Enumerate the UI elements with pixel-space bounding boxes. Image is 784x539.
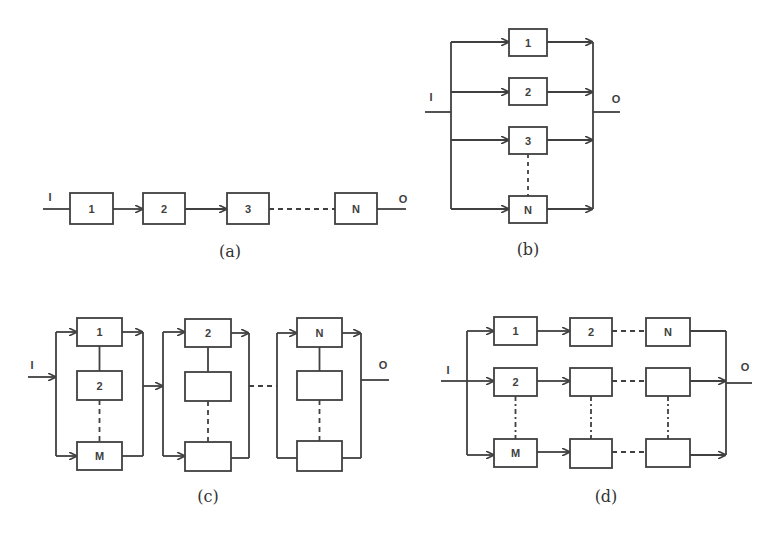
input-label: I: [48, 191, 51, 203]
series-row-1: 1 2 N: [467, 317, 726, 346]
input-label: I: [446, 364, 449, 376]
block-label: 1: [96, 326, 102, 338]
series-row-2: 2: [467, 368, 725, 396]
block-empty: [646, 439, 690, 467]
output-label: O: [612, 93, 621, 105]
block-label: 1: [88, 203, 94, 215]
panel-b-parallel: I O 1 2 3 N (b): [425, 29, 621, 259]
block-label: 2: [512, 376, 518, 388]
block-label: 1: [512, 325, 518, 337]
caption-b: (b): [517, 240, 540, 259]
output-label: O: [379, 359, 388, 371]
block-label: 2: [525, 86, 531, 98]
series-row-m: M: [467, 439, 725, 468]
panel-d-parallel-series: I 1 2 N 2: [441, 317, 752, 506]
block-label: N: [664, 326, 672, 338]
block-label: N: [524, 204, 532, 216]
panel-a-series: I 1 2 3 N O (a): [43, 191, 408, 261]
block-empty: [297, 371, 342, 400]
block-empty: [185, 372, 231, 401]
block-label: 1: [525, 37, 531, 49]
parallel-group-2: 2: [163, 319, 249, 471]
input-label: I: [30, 359, 33, 371]
reliability-diagram: I 1 2 3 N O (a) I O 1 2 3: [0, 0, 784, 539]
output-label: O: [399, 193, 408, 205]
block-label: 2: [161, 203, 167, 215]
block-empty: [570, 439, 612, 468]
block-label: 3: [245, 203, 251, 215]
block-empty: [185, 442, 231, 471]
parallel-group-n: N: [277, 318, 361, 471]
panel-c-series-parallel: I 1 2 M 2: [28, 318, 389, 506]
block-label: 3: [525, 135, 531, 147]
block-label: M: [511, 447, 520, 459]
caption-d: (d): [595, 487, 618, 506]
block-empty: [646, 368, 690, 396]
block-label: N: [352, 203, 360, 215]
block-empty: [570, 368, 612, 396]
input-label: I: [429, 91, 432, 103]
block-label: N: [316, 327, 324, 339]
parallel-group-1: 1 2 M: [56, 318, 143, 470]
output-label: O: [741, 361, 750, 373]
block-label: M: [95, 450, 104, 462]
block-label: 2: [205, 327, 211, 339]
block-label: 2: [588, 326, 594, 338]
block-empty: [297, 441, 342, 471]
caption-c: (c): [197, 487, 218, 506]
caption-a: (a): [219, 242, 241, 261]
block-label: 2: [96, 380, 102, 392]
